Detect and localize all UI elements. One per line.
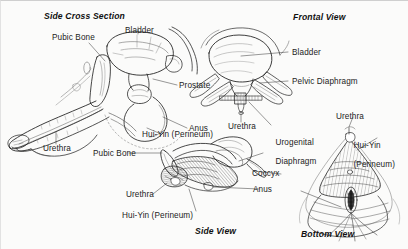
label-pubic-bone-side-view: Pubic Bone — [93, 149, 136, 159]
anatomy-figure: Side Cross Section Frontal View Side Vie… — [0, 0, 408, 249]
frontal-view-leaders — [241, 52, 288, 125]
label-urethra-side-view: Urethra — [126, 190, 154, 200]
label-hui-yin-bottom-line1: Hui-Yin — [354, 141, 381, 150]
side-view-drawing — [161, 137, 266, 191]
label-urethra-frontal-view: Urethra — [228, 122, 256, 132]
label-hui-yin-side-view: Hui-Yin (Perineum) — [122, 211, 193, 221]
panel-title-side-cross-section: Side Cross Section — [44, 11, 125, 21]
panel-title-side-view: Side View — [195, 226, 236, 236]
label-prostate-side-cross-section: Prostate — [179, 81, 210, 91]
label-urethra-side-cross-section: Urethra — [43, 144, 71, 154]
label-hui-yin-bottom-line2: (Perineum) — [354, 160, 396, 169]
label-bladder-frontal-view: Bladder — [292, 48, 321, 58]
panel-title-bottom-view: Bottom View — [301, 229, 354, 239]
label-urethra-bottom-view: Urethra — [336, 112, 364, 122]
label-coccyx-side-view: Coccyx — [252, 169, 279, 179]
label-bladder-side-cross-section: Bladder — [125, 26, 154, 36]
label-urogenital-line2: Diaphragm — [276, 157, 317, 166]
label-urogenital-line1: Urogenital — [276, 138, 314, 147]
panel-title-frontal-view: Frontal View — [293, 12, 346, 22]
label-pelvic-diaphragm-frontal-view: Pelvic Diaphragm — [292, 77, 358, 87]
side-cross-section-leaders — [56, 27, 187, 144]
label-hui-yin-side-cross-section: Hui-Yin (Perineum) — [142, 130, 213, 140]
frontal-view-drawing — [190, 28, 292, 115]
label-pubic-bone-side-cross-section: Pubic Bone — [52, 33, 95, 43]
label-hui-yin-bottom-view: Hui-Yin (Perineum) — [344, 132, 395, 179]
label-anus-side-view: Anus — [253, 185, 272, 195]
